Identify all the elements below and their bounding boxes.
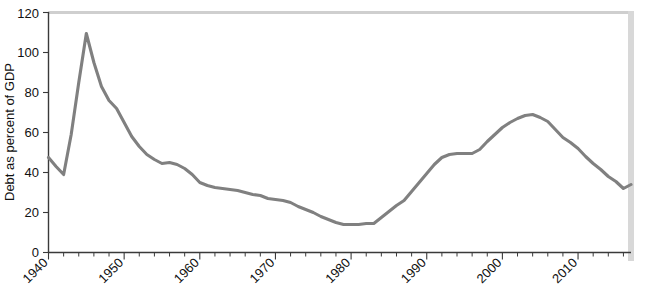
x-tick-label-1960: 1960 — [171, 255, 202, 286]
x-tick-label-1980: 1980 — [322, 255, 353, 286]
y-tick-label-60: 60 — [25, 125, 39, 140]
plot-top-border — [48, 11, 631, 14]
x-tick-label-1990: 1990 — [398, 255, 429, 286]
y-tick-label-120: 120 — [17, 6, 39, 21]
x-axis-tick-labels: 19401950196019701980199020002010 — [20, 255, 581, 286]
x-tick-label-1950: 1950 — [95, 255, 126, 286]
chart-figure: 0 20 40 60 80 100 120 Debt as percent of… — [0, 0, 650, 301]
x-tick-label-1970: 1970 — [247, 255, 278, 286]
plot-right-border — [628, 11, 634, 261]
debt-to-gdp-line-chart: 0 20 40 60 80 100 120 Debt as percent of… — [0, 0, 650, 301]
y-axis-tick-labels: 0 20 40 60 80 100 120 — [17, 6, 39, 260]
y-axis-title: Debt as percent of GDP — [2, 63, 17, 201]
y-tick-label-20: 20 — [25, 205, 39, 220]
x-axis-ticks — [49, 253, 624, 260]
x-tick-label-2010: 2010 — [549, 255, 580, 286]
y-axis-ticks — [43, 13, 48, 253]
x-tick-label-2000: 2000 — [473, 255, 504, 286]
y-tick-label-80: 80 — [25, 85, 39, 100]
y-tick-label-100: 100 — [17, 45, 39, 60]
debt-series-line — [49, 34, 632, 225]
y-tick-label-40: 40 — [25, 165, 39, 180]
x-tick-label-1940: 1940 — [20, 255, 51, 286]
